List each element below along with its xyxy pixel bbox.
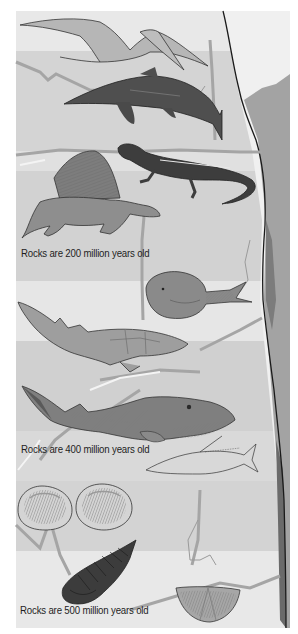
rock-layers-illustration [0,0,298,634]
age-label-500: Rocks are 500 million years old [20,604,149,616]
brachiopod-shell-right [76,484,132,530]
age-label-400: Rocks are 400 million years old [21,443,150,455]
age-label-200: Rocks are 200 million years old [21,247,150,259]
